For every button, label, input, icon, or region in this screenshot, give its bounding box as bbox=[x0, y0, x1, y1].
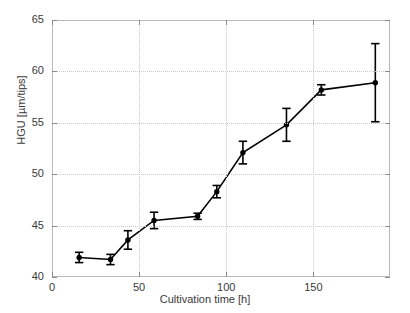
x-axis-title: Cultivation time [h] bbox=[0, 293, 410, 305]
data-point-marker bbox=[319, 87, 324, 92]
y-axis-tick bbox=[52, 71, 57, 72]
y-axis-tick bbox=[52, 174, 57, 175]
x-axis-tick-label: 100 bbox=[196, 281, 256, 293]
x-axis-tick bbox=[313, 20, 314, 25]
gridline-horizontal bbox=[52, 174, 390, 175]
y-axis-tick bbox=[385, 123, 390, 124]
x-axis-tick bbox=[139, 272, 140, 277]
data-point-marker bbox=[240, 150, 245, 155]
y-axis-tick-label: 65 bbox=[0, 13, 44, 25]
y-axis-tick bbox=[385, 71, 390, 72]
x-axis-tick-label: 150 bbox=[283, 281, 343, 293]
x-axis-tick-label: 50 bbox=[109, 281, 169, 293]
gridline-vertical bbox=[313, 20, 314, 277]
gridline-vertical bbox=[139, 20, 140, 277]
gridline-horizontal bbox=[52, 226, 390, 227]
y-axis-tick bbox=[52, 123, 57, 124]
y-axis-tick-label: 45 bbox=[0, 219, 44, 231]
data-point-marker bbox=[108, 257, 113, 262]
y-axis-tick bbox=[385, 174, 390, 175]
x-axis-tick bbox=[226, 272, 227, 277]
data-series-layer bbox=[53, 21, 391, 278]
x-axis-tick bbox=[313, 272, 314, 277]
data-point-marker bbox=[151, 218, 156, 223]
series-line bbox=[79, 83, 375, 260]
y-axis-tick bbox=[385, 277, 390, 278]
data-point-marker bbox=[76, 255, 81, 260]
x-axis-tick-label: 0 bbox=[22, 281, 82, 293]
x-axis-tick bbox=[226, 20, 227, 25]
y-axis-tick bbox=[52, 226, 57, 227]
y-axis-tick bbox=[52, 277, 57, 278]
data-point-marker bbox=[195, 214, 200, 219]
y-axis-tick bbox=[385, 20, 390, 21]
data-point-marker bbox=[214, 189, 219, 194]
gridline-horizontal bbox=[52, 71, 390, 72]
gridline-horizontal bbox=[52, 123, 390, 124]
x-axis-tick bbox=[52, 272, 53, 277]
data-point-marker bbox=[373, 80, 378, 85]
plot-area bbox=[52, 20, 390, 277]
x-axis-tick bbox=[52, 20, 53, 25]
data-point-marker bbox=[125, 237, 130, 242]
x-axis-tick bbox=[139, 20, 140, 25]
y-axis-tick bbox=[385, 226, 390, 227]
chart-figure: 404550556065050100150 Cultivation time [… bbox=[0, 0, 410, 313]
y-axis-title: HGU [µm/tips] bbox=[15, 45, 27, 175]
gridline-vertical bbox=[226, 20, 227, 277]
